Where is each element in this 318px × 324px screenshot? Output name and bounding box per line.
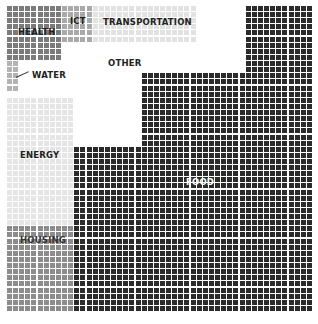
waffle-cell-housing (56, 294, 61, 299)
waffle-cell-food (240, 275, 245, 280)
waffle-cell-food (93, 281, 98, 286)
waffle-cell-housing (68, 306, 73, 311)
waffle-cell-food (209, 208, 214, 213)
waffle-cell-food (197, 73, 202, 78)
waffle-cell-housing (68, 251, 73, 256)
waffle-cell-food (240, 190, 245, 195)
waffle-cell-food (209, 110, 214, 115)
waffle-cell-water (13, 61, 18, 66)
waffle-cell-food (172, 116, 177, 121)
waffle-cell-food (197, 245, 202, 250)
waffle-cell-energy (62, 147, 67, 152)
waffle-cell-food (160, 165, 165, 170)
waffle-cell-food (258, 300, 263, 305)
waffle-cell-health (38, 6, 43, 11)
waffle-cell-energy (19, 171, 24, 176)
waffle-cell-food (99, 183, 104, 188)
waffle-cell-food (282, 12, 287, 17)
waffle-cell-food (215, 104, 220, 109)
waffle-cell-food (282, 128, 287, 133)
waffle-cell-food (289, 147, 294, 152)
waffle-cell-food (99, 251, 104, 256)
waffle-cell-health (38, 12, 43, 17)
waffle-cell-food (111, 147, 116, 152)
waffle-cell-food (252, 6, 257, 11)
waffle-cell-food (215, 220, 220, 225)
waffle-cell-food (276, 24, 281, 29)
waffle-cell-food (117, 183, 122, 188)
waffle-cell-food (233, 110, 238, 115)
waffle-cell-food (129, 153, 134, 158)
waffle-cell-food (221, 98, 226, 103)
waffle-cell-food (117, 281, 122, 286)
waffle-cell-health (7, 12, 12, 17)
waffle-cell-food (240, 281, 245, 286)
waffle-cell-food (282, 135, 287, 140)
waffle-cell-food (282, 202, 287, 207)
waffle-cell-food (227, 220, 232, 225)
waffle-cell-food (295, 135, 300, 140)
waffle-cell-food (148, 245, 153, 250)
waffle-cell-food (166, 92, 171, 97)
waffle-cell-food (154, 202, 159, 207)
waffle-cell-food (289, 226, 294, 231)
waffle-cell-food (166, 239, 171, 244)
waffle-cell-food (99, 306, 104, 311)
waffle-cell-ict (87, 18, 92, 23)
waffle-cell-housing (25, 288, 30, 293)
waffle-cell-food (191, 220, 196, 225)
waffle-cell-food (105, 288, 110, 293)
waffle-cell-food (307, 86, 312, 91)
waffle-cell-food (227, 275, 232, 280)
waffle-cell-food (80, 147, 85, 152)
waffle-cell-food (166, 190, 171, 195)
waffle-cell-food (191, 159, 196, 164)
waffle-cell-food (295, 245, 300, 250)
waffle-cell-food (270, 55, 275, 60)
waffle-cell-food (252, 239, 257, 244)
waffle-cell-food (282, 49, 287, 54)
waffle-cell-food (270, 128, 275, 133)
waffle-cell-food (246, 122, 251, 127)
waffle-cell-food (172, 214, 177, 219)
waffle-cell-food (184, 147, 189, 152)
waffle-cell-food (295, 86, 300, 91)
waffle-cell-food (221, 226, 226, 231)
waffle-cell-energy (44, 183, 49, 188)
waffle-cell-food (282, 86, 287, 91)
waffle-cell-housing (38, 281, 43, 286)
waffle-cell-food (209, 104, 214, 109)
waffle-cell-housing (25, 294, 30, 299)
waffle-cell-food (246, 300, 251, 305)
waffle-cell-food (264, 37, 269, 42)
waffle-cell-food (258, 239, 263, 244)
waffle-cell-food (301, 196, 306, 201)
waffle-cell-food (215, 190, 220, 195)
waffle-cell-energy (50, 165, 55, 170)
waffle-cell-energy (44, 196, 49, 201)
waffle-cell-energy (7, 220, 12, 225)
waffle-cell-energy (38, 220, 43, 225)
waffle-cell-transportation (93, 37, 98, 42)
waffle-cell-food (215, 165, 220, 170)
waffle-cell-energy (68, 153, 73, 158)
waffle-cell-food (233, 79, 238, 84)
waffle-cell-food (252, 294, 257, 299)
waffle-cell-food (93, 232, 98, 237)
waffle-cell-food (184, 251, 189, 256)
waffle-cell-food (123, 281, 128, 286)
waffle-cell-housing (19, 257, 24, 262)
waffle-cell-food (117, 190, 122, 195)
waffle-cell-food (74, 165, 79, 170)
waffle-cell-food (252, 257, 257, 262)
waffle-cell-food (209, 98, 214, 103)
waffle-cell-food (252, 269, 257, 274)
waffle-cell-food (99, 269, 104, 274)
waffle-cell-health (38, 18, 43, 23)
waffle-cell-food (221, 196, 226, 201)
waffle-cell-energy (7, 110, 12, 115)
waffle-cell-food (123, 239, 128, 244)
waffle-cell-food (258, 232, 263, 237)
waffle-cell-food (295, 147, 300, 152)
waffle-cell-energy (56, 98, 61, 103)
